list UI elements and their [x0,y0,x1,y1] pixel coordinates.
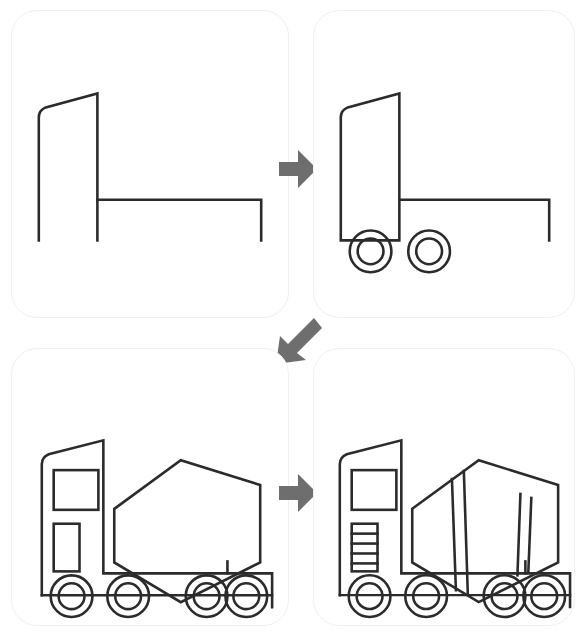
cab-outline-path [39,94,98,241]
step-panel-4[interactable] [313,348,575,626]
step-4-drawing [314,349,574,625]
drum-band-right-a [517,494,520,575]
step-1-drawing [12,11,288,317]
second-wheel [408,230,450,272]
cab-window [54,470,99,510]
drum-band-right-b [528,498,531,571]
cab-outline-path [341,94,400,241]
drum-facet-lines [452,471,531,594]
cab-window [352,470,397,510]
arrow-right-glyph [279,474,317,512]
drawing-tutorial-sheet [0,0,585,633]
step-panel-2[interactable] [313,10,575,318]
step-panel-1[interactable] [11,10,289,318]
step-2-drawing [314,11,574,317]
chassis-line-path [399,200,549,241]
cab-door-panel [54,524,80,572]
cab-ladder [352,524,378,572]
mixer-drum-hexagon [412,460,558,602]
arrow-right-glyph [279,150,317,188]
mixer-drum-hexagon [114,460,260,602]
step-panel-3[interactable] [11,348,289,626]
step-3-drawing [12,349,288,625]
chassis-line-path [97,200,261,241]
front-wheel [350,230,392,272]
drum-band-left-b [464,471,468,594]
